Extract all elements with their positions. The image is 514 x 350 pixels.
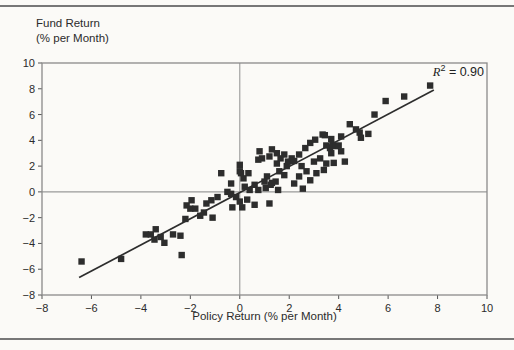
y-axis-title: Fund Return (% per Month): [36, 16, 109, 46]
y-tick-label: 8: [29, 83, 35, 95]
data-point-marker: [382, 98, 388, 104]
data-point-marker: [153, 226, 159, 232]
data-point-marker: [275, 187, 281, 193]
data-point-marker: [237, 162, 243, 168]
data-point-marker: [272, 178, 278, 184]
data-point-marker: [331, 160, 337, 166]
data-point-marker: [300, 185, 306, 191]
data-point-marker: [303, 168, 309, 174]
x-axis-title: Policy Return (% per Month): [42, 310, 487, 322]
data-point-marker: [118, 256, 124, 262]
data-point-marker: [427, 82, 433, 88]
data-point-marker: [281, 151, 287, 157]
data-point-marker: [192, 205, 198, 211]
y-tick-label: −4: [22, 237, 35, 249]
data-point-marker: [264, 173, 270, 179]
data-point-marker: [296, 151, 302, 157]
data-point-marker: [307, 177, 313, 183]
data-point-marker: [365, 131, 371, 137]
data-point-marker: [157, 234, 163, 240]
data-point-marker: [358, 135, 364, 141]
data-point-marker: [151, 236, 157, 242]
data-point-marker: [401, 93, 407, 99]
data-point-marker: [328, 136, 334, 142]
data-point-marker: [296, 173, 302, 179]
y-tick-label: 6: [29, 109, 35, 121]
data-point-marker: [178, 252, 184, 258]
figure-page: Fund Return (% per Month) R2 = 0.90 1086…: [0, 0, 514, 350]
data-point-marker: [291, 158, 297, 164]
data-point-marker: [188, 197, 194, 203]
data-point-marker: [311, 158, 317, 164]
y-axis-title-line1: Fund Return: [36, 16, 109, 31]
data-point-marker: [229, 204, 235, 210]
data-point-marker: [291, 180, 297, 186]
data-point-marker: [182, 216, 188, 222]
bottom-rule: [0, 338, 514, 340]
y-axis-title-line2: (% per Month): [36, 31, 109, 46]
data-point-marker: [208, 197, 214, 203]
data-point-marker: [161, 240, 167, 246]
data-point-marker: [245, 170, 251, 176]
data-point-marker: [342, 158, 348, 164]
y-tick-label: 0: [29, 186, 35, 198]
data-point-marker: [78, 258, 84, 264]
top-rule: [0, 5, 514, 7]
y-tick-label: 2: [29, 160, 35, 172]
data-point-marker: [266, 153, 272, 159]
data-point-marker: [177, 233, 183, 239]
y-tick-label: −2: [22, 212, 35, 224]
data-point-marker: [170, 231, 176, 237]
data-point-marker: [214, 194, 220, 200]
data-point-marker: [218, 170, 224, 176]
data-point-marker: [239, 204, 245, 210]
data-point-marker: [338, 133, 344, 139]
data-point-marker: [312, 136, 318, 142]
data-point-marker: [256, 148, 262, 154]
y-tick-label: 4: [29, 134, 35, 146]
data-point-marker: [328, 150, 334, 156]
data-point-marker: [322, 132, 328, 138]
data-point-marker: [201, 209, 207, 215]
data-point-marker: [281, 172, 287, 178]
y-tick-label: −6: [22, 263, 35, 275]
data-point-marker: [313, 170, 319, 176]
data-point-marker: [251, 202, 257, 208]
data-point-marker: [335, 142, 341, 148]
data-point-marker: [371, 111, 377, 117]
y-tick-label: 10: [23, 57, 35, 69]
data-point-marker: [317, 155, 323, 161]
data-point-marker: [209, 214, 215, 220]
data-point-marker: [244, 196, 250, 202]
data-point-marker: [266, 200, 272, 206]
data-point-marker: [347, 121, 353, 127]
scatter-plot: 1086420−2−4−6−8−8−6−4−20246810: [0, 55, 514, 330]
data-point-marker: [323, 160, 329, 166]
data-point-marker: [259, 155, 265, 161]
data-point-marker: [237, 198, 243, 204]
data-point-marker: [228, 180, 234, 186]
data-point-marker: [338, 148, 344, 154]
data-point-marker: [321, 167, 327, 173]
y-tick-label: −8: [22, 289, 35, 301]
data-point-marker: [255, 187, 261, 193]
